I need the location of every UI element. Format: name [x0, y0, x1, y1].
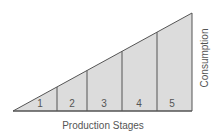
stage-label-4: 4	[136, 98, 142, 109]
production-stages-diagram: 1 2 3 4 5 Production Stages Consumption	[0, 0, 216, 139]
stage-label-3: 3	[101, 98, 107, 109]
stage-label-2: 2	[69, 98, 75, 109]
x-axis-label: Production Stages	[62, 120, 144, 131]
y-axis-label: Consumption	[199, 29, 210, 88]
triangle	[13, 13, 192, 111]
stage-label-5: 5	[169, 98, 175, 109]
stage-label-1: 1	[37, 98, 43, 109]
